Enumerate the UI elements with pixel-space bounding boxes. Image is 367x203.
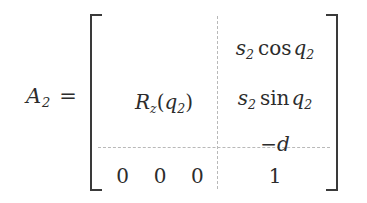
bottom-zero-3: 0: [191, 164, 204, 188]
col4-row2-function: sin: [260, 86, 290, 110]
col4-row1-argument: q: [293, 36, 306, 60]
rotation-argument-subscript: 2: [177, 101, 185, 116]
bottom-zero-1: 0: [116, 164, 129, 188]
matrix: Rz(q2) s2cosq2 s2sinq2 −d 0 0 0 1: [90, 14, 338, 191]
equation-figure: A2= Rz(q2) s2cosq2 s2sinq2 −d 0 0 0: [0, 0, 367, 203]
lhs-symbol: A: [26, 84, 41, 108]
col4-row1-argument-subscript: 2: [306, 47, 314, 62]
col4-row2-factor-subscript: 2: [248, 97, 256, 112]
col4-row2-argument: q: [292, 86, 305, 110]
col4-row1-factor-subscript: 2: [246, 47, 254, 62]
matrix-cell-col4-row1: s2cosq2: [221, 36, 329, 62]
col4-row1-function: cos: [258, 36, 292, 60]
col4-row3-minus: −: [260, 132, 277, 156]
matrix-bottom-row-zeros: 0 0 0: [104, 164, 216, 188]
matrix-cell-col4-row2: s2sinq2: [221, 86, 329, 112]
lhs-expression: A2=: [26, 84, 77, 110]
bottom-zero-2: 0: [154, 164, 167, 188]
rotation-symbol: R: [135, 90, 150, 114]
col4-row1-factor: s: [236, 36, 246, 60]
partition-line-vertical: [217, 16, 218, 189]
matrix-block-rotation: Rz(q2): [112, 90, 216, 116]
rotation-close-paren: ): [185, 90, 193, 114]
matrix-bottom-row-one: 1: [221, 164, 329, 188]
col4-row2-factor: s: [238, 86, 248, 110]
rotation-subscript: z: [150, 101, 157, 116]
rotation-argument: q: [164, 90, 177, 114]
lhs-subscript: 2: [42, 95, 50, 110]
equals-sign: =: [59, 84, 77, 108]
matrix-cell-col4-row3: −d: [221, 132, 329, 156]
matrix-bracket-left: [90, 14, 102, 191]
col4-row2-argument-subscript: 2: [304, 97, 312, 112]
col4-row3-argument: d: [277, 132, 290, 156]
